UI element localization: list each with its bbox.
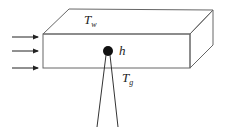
label-heat-coeff: h xyxy=(119,43,126,58)
thermocouple-probe xyxy=(97,46,118,127)
duct-box xyxy=(43,9,213,68)
flow-arrows xyxy=(12,37,38,68)
box-front-face xyxy=(43,34,190,68)
box-right-face xyxy=(190,10,213,68)
probe-lead-left xyxy=(97,55,106,127)
probe-bead-icon xyxy=(103,46,113,56)
label-wall-temp: Tw xyxy=(84,12,97,29)
box-top-face xyxy=(43,9,213,34)
label-gas-temp: Tg xyxy=(122,70,133,87)
probe-lead-right xyxy=(110,55,118,127)
diagram-canvas: Tw h Tg xyxy=(0,0,225,131)
